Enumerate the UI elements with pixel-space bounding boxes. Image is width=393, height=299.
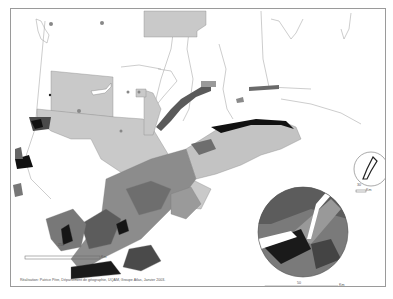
- small-inset-scale-unit: Km: [366, 188, 371, 192]
- inset-scale-unit: Km: [339, 283, 344, 287]
- montreal-inset: [258, 187, 348, 277]
- small-inset-scale-value: 30: [357, 183, 361, 187]
- magdalen-inset: [354, 152, 386, 186]
- choropleth-map: [11, 9, 386, 287]
- main-scale-unit: Km: [101, 255, 106, 259]
- map-frame: [10, 8, 386, 287]
- western-region: [13, 117, 51, 197]
- map-credit: Réalisation: Patrice Pitre, Département …: [20, 278, 165, 282]
- inset-scale-value: 50: [297, 281, 301, 285]
- gaspe-region: [186, 119, 301, 179]
- main-scale-value: 250: [58, 243, 64, 247]
